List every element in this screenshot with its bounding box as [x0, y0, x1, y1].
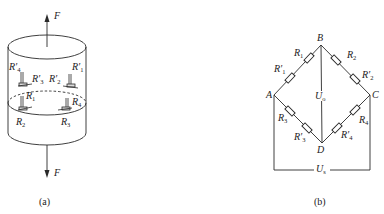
supply-voltage-label: Us — [316, 164, 326, 174]
gauge-label-R1: R1 — [26, 91, 35, 101]
resistor-label-R1: R1 — [294, 48, 303, 58]
force-arrow-up — [45, 14, 50, 47]
resistor-label-R4: R4 — [359, 115, 368, 125]
node-label-D: D — [317, 145, 324, 155]
resistor-label-R2p: R′2 — [362, 70, 374, 80]
resistor-label-R1p: R′1 — [274, 64, 286, 74]
resistor-label-R3p: R′3 — [294, 132, 306, 142]
output-voltage-label: Uo — [315, 91, 325, 101]
gauge-label-R2: R2 — [16, 117, 25, 127]
force-label-top: F — [54, 11, 60, 21]
node-label-B: B — [317, 33, 323, 43]
gauge-label-R2p: R′2 — [49, 74, 61, 84]
caption-a: (a) — [39, 197, 50, 207]
gauge-label-R3p: R′3 — [32, 74, 44, 84]
resistor-label-R2: R2 — [347, 50, 356, 60]
resistor-label-R3: R3 — [278, 113, 287, 123]
gauge-label-R3: R3 — [61, 117, 70, 127]
node-label-A: A — [266, 90, 272, 100]
gauge-label-R1p: R′1 — [72, 62, 84, 72]
gauge-label-R4: R4 — [72, 97, 81, 107]
gauge-label-R4p: R′4 — [9, 62, 21, 72]
diagram-canvas — [0, 0, 384, 214]
resistor-label-R4p: R′4 — [341, 130, 353, 140]
caption-b: (b) — [314, 197, 326, 207]
cylinder — [8, 35, 86, 145]
node-label-C: C — [372, 90, 379, 100]
force-arrow-down — [45, 145, 50, 178]
force-label-bottom: F — [54, 168, 60, 178]
